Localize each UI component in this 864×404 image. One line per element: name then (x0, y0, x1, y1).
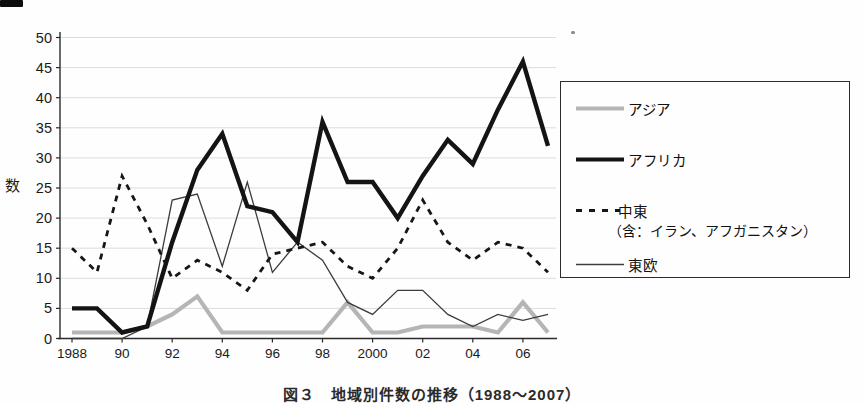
x-tick-label: 02 (415, 346, 430, 361)
y-axis-label: 数 (5, 174, 20, 195)
y-tick-label: 30 (36, 150, 52, 166)
y-tick-label: 15 (36, 240, 52, 256)
x-tick-label: 92 (165, 346, 180, 361)
x-tick-label: 04 (465, 346, 481, 361)
legend-label-eastern-europe: 東欧 (628, 254, 657, 275)
y-tick-label: 10 (36, 270, 52, 286)
x-tick-label: 96 (265, 346, 280, 361)
series-アフリカ (72, 62, 548, 333)
x-tick-label: 06 (515, 346, 530, 361)
figure-caption: 図３ 地域別件数の推移（1988～2007） (0, 383, 864, 404)
legend: アジア アフリカ 中東 （含：イラン、アフガニスタン） 東欧 (560, 81, 850, 278)
legend-label-middle-east: 中東 (618, 200, 647, 221)
legend-label-asia: アジア (628, 98, 671, 119)
legend-entry-eastern-europe: 東欧 (561, 254, 849, 274)
x-tick-label: 98 (315, 346, 330, 361)
x-tick-label: 1988 (57, 346, 87, 361)
series-東欧 (72, 182, 548, 339)
asia-line-sample (576, 104, 624, 113)
series-中東（含：イラン、アフガニスタン） (72, 176, 548, 290)
legend-sublabel-middle-east: （含：イラン、アフガニスタン） (608, 220, 817, 240)
y-tick-label: 20 (36, 210, 52, 226)
legend-label-africa: アフリカ (628, 149, 686, 170)
africa-line-sample (576, 155, 624, 164)
middle-east-line-sample (576, 206, 624, 215)
y-tick-label: 50 (36, 30, 52, 46)
legend-entry-africa: アフリカ (561, 149, 849, 169)
x-tick-label: 94 (215, 346, 231, 361)
scan-artifact (0, 0, 23, 7)
y-tick-label: 45 (36, 60, 52, 76)
scan-speck (571, 31, 575, 34)
legend-entry-asia: アジア (561, 98, 849, 118)
y-tick-label: 5 (44, 300, 52, 316)
x-tick-label: 90 (115, 346, 130, 361)
y-tick-label: 40 (36, 90, 52, 106)
y-tick-label: 0 (44, 331, 52, 347)
y-tick-label: 25 (36, 180, 52, 196)
y-tick-label: 35 (36, 120, 52, 136)
eastern-europe-line-sample (576, 260, 624, 269)
x-tick-label: 2000 (358, 346, 388, 361)
legend-entry-middle-east: 中東 （含：イラン、アフガニスタン） (561, 200, 849, 220)
